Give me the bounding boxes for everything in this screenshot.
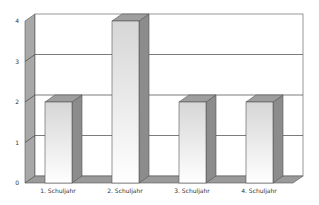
x-category-label: 3. Schuljahr [174,187,210,195]
x-category-label: 4. Schuljahr [241,187,277,195]
y-tick-label: 1 [15,139,19,146]
bar-side [139,14,149,183]
bar-front [112,21,139,183]
bar-front [246,102,273,183]
y-tick-label: 3 [15,58,19,65]
x-axis: 1. Schuljahr 2. Schuljahr 3. Schuljahr 4… [40,187,277,195]
bar-side [206,95,216,183]
bar-side [273,95,283,183]
y-tick-label: 4 [15,17,19,24]
bar-chart-3d: 0 1 2 3 4 1. Schuljahr 2. Schuljahr 3. S… [0,0,319,205]
bar-side [72,95,82,183]
x-category-label: 1. Schuljahr [40,187,76,195]
y-axis: 0 1 2 3 4 [15,17,19,186]
bar [45,95,82,183]
x-category-label: 2. Schuljahr [107,187,143,195]
y-tick-label: 2 [15,98,19,105]
bar-front [45,102,72,183]
bar [246,95,283,183]
y-tick-label: 0 [15,179,19,186]
bar [112,14,149,183]
bar [179,95,216,183]
bar-front [179,102,206,183]
